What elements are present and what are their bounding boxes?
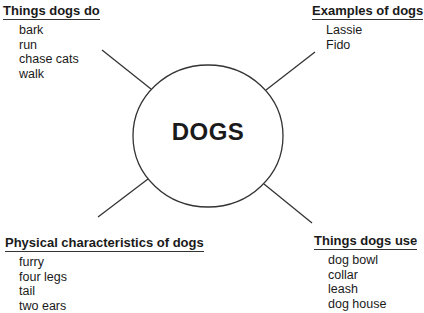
branch-heading: Things dogs use [314, 233, 417, 250]
connector-bottom-right [264, 184, 312, 223]
list-item: four legs [19, 270, 204, 285]
list-item: collar [328, 268, 417, 283]
branch-heading: Examples of dogs [312, 3, 423, 20]
list-item: run [19, 38, 100, 53]
connector-bottom-left [98, 179, 148, 217]
list-item: Lassie [326, 23, 423, 38]
branch-list: Lassie Fido [312, 23, 423, 52]
branch-list: furry four legs tail two ears [5, 255, 204, 313]
branch-list: bark run chase cats walk [3, 23, 100, 81]
list-item: Fido [326, 38, 423, 53]
list-item: bark [19, 23, 100, 38]
branch-heading: Things dogs do [3, 3, 100, 20]
list-item: dog house [328, 297, 417, 312]
list-item: furry [19, 255, 204, 270]
list-item: two ears [19, 299, 204, 313]
list-item: tail [19, 284, 204, 299]
list-item: leash [328, 282, 417, 297]
branch-things-dogs-do: Things dogs do bark run chase cats walk [3, 1, 100, 81]
branch-examples-of-dogs: Examples of dogs Lassie Fido [312, 1, 423, 52]
branch-list: dog bowl collar leash dog house [314, 253, 417, 311]
branch-heading: Physical characteristics of dogs [5, 235, 204, 252]
list-item: dog bowl [328, 253, 417, 268]
center-topic: DOGS [133, 118, 283, 146]
branch-things-dogs-use: Things dogs use dog bowl collar leash do… [314, 231, 417, 311]
connector-top-left [102, 50, 151, 89]
connector-top-right [266, 52, 315, 90]
branch-physical-characteristics: Physical characteristics of dogs furry f… [5, 233, 204, 313]
list-item: walk [19, 67, 100, 82]
list-item: chase cats [19, 52, 100, 67]
